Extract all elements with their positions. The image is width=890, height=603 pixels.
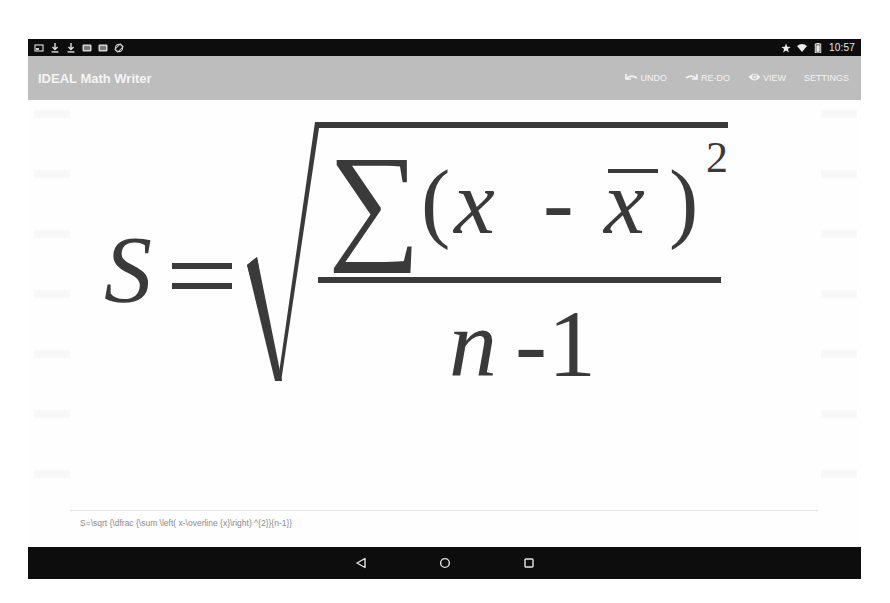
view-label: VIEW [763, 73, 786, 83]
variable-x-bar: x [604, 156, 645, 248]
divider [70, 510, 818, 511]
star-icon [781, 43, 791, 53]
battery-icon [813, 43, 823, 53]
rendered-formula: S ∑ ( x - x ) 2 n - 1 [28, 100, 861, 547]
latex-source-text[interactable]: S=\sqrt {\dfrac {\sum \left( x-\overline… [80, 518, 292, 528]
recents-button[interactable] [518, 552, 540, 574]
app-title: IDEAL Math Writer [38, 71, 152, 86]
minus-sign: - [543, 156, 574, 248]
denominator-minus: - [515, 296, 547, 392]
notification-icons [34, 43, 124, 53]
tablet-screen: 10:57 IDEAL Math Writer UNDO RE-DO [28, 39, 861, 579]
exponent: 2 [706, 136, 728, 180]
settings-button[interactable]: SETTINGS [804, 73, 849, 83]
open-paren: ( [421, 158, 450, 246]
photo-icon [82, 43, 92, 53]
undo-button[interactable]: UNDO [624, 72, 667, 84]
screenshot-icon [34, 43, 44, 53]
home-icon [439, 557, 451, 569]
redo-button[interactable]: RE-DO [685, 72, 730, 84]
variable-x: x [454, 156, 495, 248]
formula-lhs: S [104, 222, 152, 318]
screen-rotation-icon [114, 43, 124, 53]
sum-symbol: ∑ [328, 136, 421, 266]
back-icon [355, 557, 367, 569]
photo-icon [98, 43, 108, 53]
settings-label: SETTINGS [804, 73, 849, 83]
redo-label: RE-DO [701, 73, 730, 83]
formula-canvas[interactable]: S ∑ ( x - x ) 2 n - 1 S=\sqrt {\dfrac {\… [28, 100, 861, 547]
denominator-one: 1 [548, 296, 596, 392]
back-button[interactable] [350, 552, 372, 574]
fraction-bar [318, 277, 721, 283]
app-bar: IDEAL Math Writer UNDO RE-DO VIEW [28, 56, 861, 100]
status-bar: 10:57 [28, 39, 861, 56]
eye-icon [748, 71, 761, 85]
download-icon [66, 43, 76, 53]
close-paren: ) [669, 158, 698, 246]
recents-icon [523, 557, 535, 569]
navigation-bar [28, 547, 861, 579]
undo-label: UNDO [640, 73, 667, 83]
wifi-icon [797, 43, 807, 53]
download-icon [50, 43, 60, 53]
denominator-n: n [449, 296, 497, 392]
clock: 10:57 [829, 42, 855, 53]
system-indicators: 10:57 [781, 42, 855, 53]
undo-icon [624, 72, 638, 84]
home-button[interactable] [434, 552, 456, 574]
view-button[interactable]: VIEW [748, 71, 786, 85]
redo-icon [685, 72, 699, 84]
toolbar-actions: UNDO RE-DO VIEW SETTINGS [624, 71, 849, 85]
